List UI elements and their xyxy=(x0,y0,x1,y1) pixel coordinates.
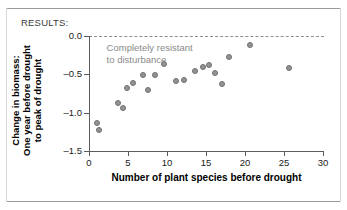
data-point xyxy=(212,70,218,76)
data-point xyxy=(124,85,130,91)
data-point xyxy=(219,81,225,87)
x-axis-tick xyxy=(284,151,285,156)
data-point xyxy=(247,42,253,48)
data-point xyxy=(206,62,212,68)
data-point xyxy=(161,61,167,67)
y-axis-title-line: to peak of drought xyxy=(32,31,43,171)
x-axis-tick-label: 15 xyxy=(194,158,218,168)
y-axis-title: Change in biomass:One year before drough… xyxy=(10,31,43,171)
data-point xyxy=(120,105,126,111)
y-axis-line xyxy=(89,36,90,152)
plot-annotation: Completely resistantto disturbance xyxy=(107,42,193,65)
y-axis-tick xyxy=(84,74,89,75)
data-point xyxy=(130,80,136,86)
x-axis-tick-label: 0 xyxy=(77,158,101,168)
plot-annotation-line: Completely resistant xyxy=(107,42,193,54)
y-axis-tick-label: –1.5 xyxy=(52,146,82,156)
x-axis-tick xyxy=(128,151,129,156)
x-axis-tick xyxy=(323,151,324,156)
data-point xyxy=(152,72,158,78)
x-axis-tick xyxy=(245,151,246,156)
y-axis-title-line: One year before drought xyxy=(21,31,32,171)
y-axis-tick-label: 0.0 xyxy=(52,31,82,41)
x-axis-tick-label: 20 xyxy=(233,158,257,168)
data-point xyxy=(226,54,232,60)
data-point xyxy=(96,127,102,133)
zero-reference-line xyxy=(89,36,324,37)
plot-annotation-line: to disturbance xyxy=(107,54,193,66)
y-axis-tick xyxy=(84,36,89,37)
data-point xyxy=(200,64,206,70)
y-axis-tick-label: –1.0 xyxy=(52,108,82,118)
y-axis-title-line: Change in biomass: xyxy=(10,31,21,171)
x-axis-tick xyxy=(167,151,168,156)
x-axis-tick-label: 25 xyxy=(272,158,296,168)
y-axis-tick-label: –0.5 xyxy=(52,69,82,79)
data-point xyxy=(140,72,146,78)
x-axis-tick xyxy=(89,151,90,156)
data-point xyxy=(181,77,187,83)
data-point xyxy=(94,120,100,126)
data-point xyxy=(145,87,151,93)
y-axis-tick xyxy=(84,113,89,114)
results-figure: RESULTS: 0.0–0.5–1.0–1.5051015202530Comp… xyxy=(0,0,347,210)
x-axis-tick xyxy=(206,151,207,156)
data-point xyxy=(192,68,198,74)
data-point xyxy=(173,78,179,84)
x-axis-title: Number of plant species before drought xyxy=(89,172,324,183)
x-axis-tick-label: 5 xyxy=(116,158,140,168)
x-axis-tick-label: 10 xyxy=(155,158,179,168)
data-point xyxy=(286,65,292,71)
x-axis-tick-label: 30 xyxy=(311,158,335,168)
